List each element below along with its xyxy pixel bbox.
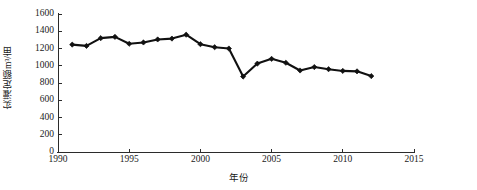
x-axis-tick-label: 2000 [180,155,220,165]
data-point-marker [141,40,146,45]
y-axis-tick [58,14,62,15]
data-point-marker [340,68,345,73]
x-axis-title: 年份 [0,170,477,184]
y-axis-tick [58,152,62,153]
y-axis-tick [58,31,62,32]
data-point-marker [155,37,160,42]
x-axis-tick-label: 1990 [38,155,78,165]
data-point-marker [169,36,174,41]
x-axis-tick [414,149,415,153]
y-axis-tick [58,100,62,101]
x-axis-tick [129,149,130,153]
series-line-实灌定额 [72,35,371,77]
x-axis-tick [58,149,59,153]
data-point-marker [369,74,374,79]
data-point-marker [269,56,274,61]
data-point-marker [312,64,317,69]
x-axis-tick-label: 2005 [252,155,292,165]
x-axis-tick-label: 2015 [394,155,434,165]
series-markers [70,32,374,79]
x-axis-tick [200,149,201,153]
y-axis-tick [58,117,62,118]
line-chart-figure: 实灌定额m³/亩 02004006008001000120014001600 年… [0,0,477,190]
x-axis-tick [271,149,272,153]
x-axis-tick [342,149,343,153]
data-point-marker [70,42,75,47]
y-axis-tick [58,65,62,66]
x-axis-tick-label: 1995 [109,155,149,165]
y-axis-tick [58,134,62,135]
data-point-marker [212,45,217,50]
y-axis-tick [58,48,62,49]
data-point-marker [326,67,331,72]
x-axis-tick-label: 2010 [323,155,363,165]
data-point-marker [354,69,359,74]
y-axis-tick [58,83,62,84]
